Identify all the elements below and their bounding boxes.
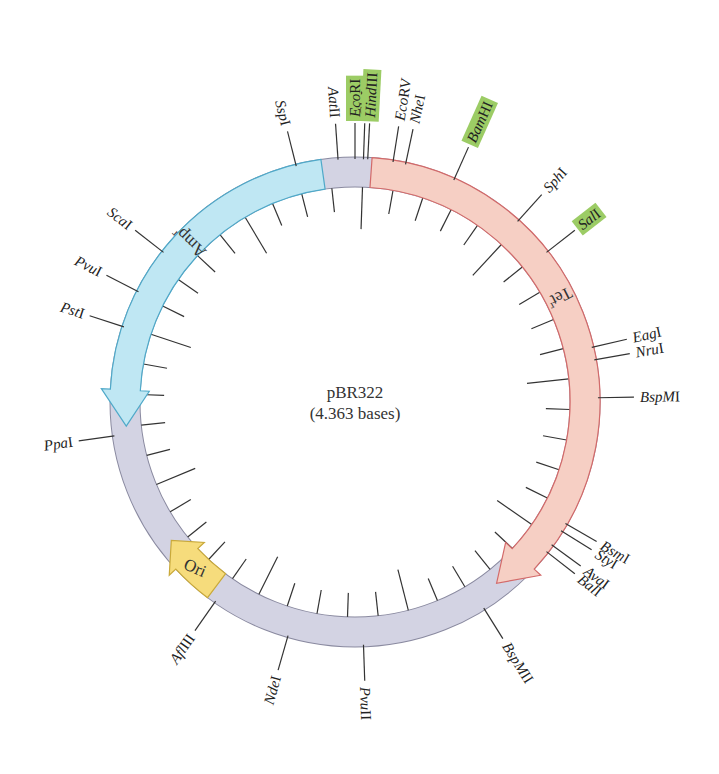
plasmid-size: (4.363 bases) (310, 404, 401, 423)
site-leader (363, 645, 364, 681)
scale-tick (440, 210, 451, 231)
site-leader (79, 436, 115, 441)
scale-tick (504, 267, 523, 282)
svg-text:BamHI: BamHI (464, 99, 496, 145)
site-bspmii: BspMII (499, 639, 536, 686)
site-leader (90, 316, 124, 327)
svg-text:SspI: SspI (272, 98, 294, 127)
scale-tick (170, 500, 191, 512)
scale-tick (163, 306, 184, 317)
site-sspi: SspI (272, 98, 294, 127)
site-pvui: PvuI (71, 252, 104, 280)
scale-tick (317, 590, 321, 614)
scale-tick (389, 190, 393, 214)
site-leader (552, 545, 581, 566)
site-leader (368, 123, 370, 159)
scale-tick (347, 593, 348, 617)
svg-text:PstI: PstI (58, 299, 87, 322)
site-leader (592, 339, 627, 347)
svg-text:AatII: AatII (325, 85, 343, 118)
scale-tick (259, 557, 278, 595)
scale-tick (151, 334, 191, 347)
site-leader (135, 230, 163, 252)
site-leader (454, 147, 469, 180)
scale-tick (141, 423, 165, 426)
site-afliii: AflIII (166, 631, 198, 668)
svg-text:SphI: SphI (540, 164, 570, 195)
site-leader (288, 131, 297, 166)
scale-tick (536, 462, 559, 470)
scale-tick (526, 487, 547, 498)
scale-tick (156, 468, 195, 484)
scale-tick (543, 436, 567, 440)
scale-tick (147, 449, 170, 455)
scale-tick (464, 225, 478, 245)
tet-gene-arrow (370, 158, 600, 584)
site-ndei: NdeI (260, 674, 284, 707)
scale-tick (415, 198, 423, 221)
site-bamhi: BamHI (461, 96, 498, 148)
site-leader (363, 123, 364, 159)
site-psti: PstI (58, 299, 87, 322)
scale-tick (220, 235, 235, 254)
scale-tick (546, 409, 570, 410)
scale-tick (497, 501, 532, 525)
plasmid-name: pBR322 (327, 383, 384, 402)
scale-tick (453, 566, 465, 587)
scale-tick (361, 187, 362, 229)
svg-text:PvuI: PvuI (71, 252, 104, 280)
scale-tick (287, 583, 295, 606)
site-leader (598, 397, 634, 398)
svg-text:AflIII: AflIII (166, 631, 198, 668)
plasmid-center-label: pBR322 (4.363 bases) (310, 383, 401, 423)
site-leader (484, 608, 503, 639)
scale-tick (428, 578, 437, 600)
site-leader (565, 524, 596, 542)
scale-tick (473, 245, 502, 276)
site-pvuii: PvuII (357, 686, 374, 721)
plasmid-map: AmprTetrOri SspIAatIIEcoRIClaIHindIIIEco… (0, 0, 719, 774)
site-hindiii: HindIII (361, 69, 382, 122)
site-sphi: SphI (540, 164, 570, 195)
scale-tick (178, 280, 198, 294)
svg-text:NdeI: NdeI (260, 674, 284, 707)
site-leader (561, 531, 592, 550)
site-leader (195, 601, 216, 630)
scale-tick (398, 570, 408, 611)
scale-tick (302, 194, 308, 217)
site-leader (406, 129, 413, 164)
scale-tick (332, 188, 335, 212)
scale-tick (540, 349, 563, 355)
svg-text:ScaI: ScaI (104, 204, 135, 233)
svg-text:HindIII: HindIII (362, 72, 380, 119)
scale-tick (143, 364, 167, 368)
site-leader (546, 230, 574, 252)
scale-tick (475, 551, 490, 570)
svg-text:BspMI: BspMI (640, 388, 680, 405)
scale-tick (233, 559, 247, 579)
scale-tick (188, 522, 207, 537)
scale-tick (209, 542, 225, 560)
scale-tick (531, 320, 553, 329)
amp-gene-arrow (101, 159, 325, 426)
site-scai: ScaI (104, 204, 135, 233)
scale-tick (527, 379, 569, 384)
scale-tick (273, 203, 282, 225)
site-leader (594, 354, 629, 360)
site-aatii: AatII (325, 85, 343, 118)
site-bspmi: BspMI (640, 388, 680, 405)
site-leader (278, 636, 288, 671)
site-ppai: PpaI (42, 434, 74, 454)
site-leader (393, 126, 399, 162)
site-leader (546, 552, 574, 574)
site-leader (336, 124, 339, 160)
site-sali: SalI (572, 203, 607, 236)
svg-text:BspMII: BspMII (499, 639, 536, 686)
svg-text:PpaI: PpaI (42, 434, 74, 454)
scale-tick (245, 217, 266, 253)
scale-tick (376, 592, 379, 616)
site-leader (106, 275, 138, 291)
svg-text:PvuII: PvuII (357, 686, 374, 721)
scale-tick (519, 292, 540, 304)
site-leader (518, 195, 542, 222)
